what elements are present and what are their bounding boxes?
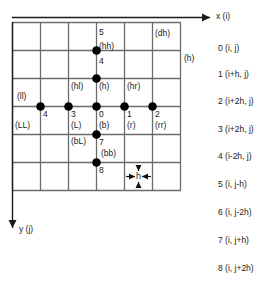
y-axis-label: y (j): [19, 225, 33, 234]
tag-label-r: (r): [127, 121, 136, 130]
node-label-1: 1: [127, 110, 132, 119]
legend-item-7: 7 (i, j+h): [218, 236, 249, 245]
tag-label-hh: (hh): [99, 42, 114, 51]
tag-label-L: (L): [71, 121, 81, 130]
tag-label-LL: (LL): [15, 121, 30, 130]
tag-label-hl: (hl): [71, 82, 83, 91]
diagram-stage: 5 4 0 1 2 3 4 4 7 8 (dh) (hh) (h) (hl) (…: [0, 0, 280, 289]
node-label-3: 3: [71, 110, 76, 119]
tag-label-b: (b): [99, 121, 109, 130]
tag-label-dh: (dh): [155, 29, 170, 38]
node-label-5: 4: [99, 57, 104, 66]
tag-label-h-side: (h): [184, 54, 194, 63]
legend-item-3: 3 (i+2h, j): [218, 125, 254, 134]
tag-label-ll: (ll): [17, 92, 26, 101]
legend-item-1: 1 (i+h, j): [218, 70, 249, 79]
tag-label-h: (h): [99, 82, 109, 91]
node-label-7: 7: [99, 138, 104, 147]
tag-label-rr: (rr): [155, 121, 166, 130]
legend-item-6: 6 (i, j-2h): [218, 208, 252, 217]
spacing-label-h: h: [136, 172, 141, 181]
legend-item-2: 2 (i+2h, j): [218, 97, 254, 106]
node-label-four: 4: [43, 110, 48, 119]
node-label-6: 5: [99, 28, 104, 37]
figure-canvas: 5 4 0 1 2 3 4 4 7 8 (dh) (hh) (h) (hl) (…: [0, 0, 280, 289]
tag-label-hr: (hr): [127, 82, 140, 91]
tag-label-bL: (bL): [71, 137, 86, 146]
node-label-8: 8: [99, 166, 104, 175]
node-label-0: 0: [99, 110, 104, 119]
legend-item-4: 4 (i-2h, j): [218, 152, 252, 161]
node-label-2: 2: [155, 110, 160, 119]
legend-item-0: 0 (i, j): [218, 44, 239, 53]
tag-label-bb: (bb): [101, 149, 116, 158]
legend-item-8: 8 (i, j+2h): [218, 264, 254, 273]
legend-item-5: 5 (i, j-h): [218, 180, 247, 189]
x-axis-label: x (i): [216, 12, 230, 21]
